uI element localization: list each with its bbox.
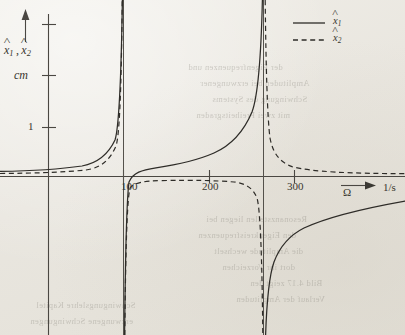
plot-canvas — [0, 0, 405, 335]
x-axis-arrow — [341, 181, 376, 189]
legend-dashed-line-icon — [292, 34, 326, 46]
legend-solid-line-icon — [292, 17, 326, 29]
series-x2-dashed — [0, 0, 405, 335]
frequency-response-figure: der Eigenfrequenzen undAmplituden bei er… — [0, 0, 405, 335]
y-axis-arrow — [22, 9, 30, 42]
series-x1-solid — [0, 0, 405, 335]
y-axis-group — [42, 14, 56, 335]
